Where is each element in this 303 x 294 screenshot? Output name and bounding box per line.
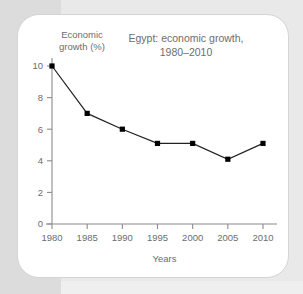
data-point-marker: [260, 141, 265, 146]
data-point-marker: [190, 141, 195, 146]
x-tick-label: 2010: [252, 232, 273, 243]
line-chart: Economic growth (%) Egypt: economic grow…: [17, 14, 289, 278]
data-point-marker: [155, 141, 160, 146]
data-point-markers: [49, 63, 265, 161]
data-point-marker: [85, 111, 90, 116]
chart-axes: [46, 58, 277, 224]
x-tick-label: 1995: [147, 232, 168, 243]
y-tick-label: 6: [38, 124, 43, 135]
y-tick-label: 10: [32, 60, 43, 71]
chart-plot-area: 0246810 1980198519901995200020052010: [17, 14, 289, 278]
data-point-marker: [225, 157, 230, 162]
data-point-marker: [120, 127, 125, 132]
y-axis-ticks: 0246810: [32, 60, 52, 229]
x-axis-ticks: 1980198519901995200020052010: [41, 224, 273, 243]
x-tick-label: 1985: [77, 232, 98, 243]
page-bottom-strip: [61, 281, 303, 294]
y-tick-label: 8: [38, 92, 43, 103]
x-tick-label: 2000: [182, 232, 203, 243]
x-tick-label: 2005: [217, 232, 238, 243]
x-tick-label: 1990: [112, 232, 133, 243]
y-tick-label: 0: [38, 218, 43, 229]
y-tick-label: 4: [38, 155, 43, 166]
data-point-marker: [49, 63, 54, 68]
page-root: Economic growth (%) Egypt: economic grow…: [0, 0, 303, 294]
y-tick-label: 2: [38, 187, 43, 198]
x-tick-label: 1980: [41, 232, 62, 243]
